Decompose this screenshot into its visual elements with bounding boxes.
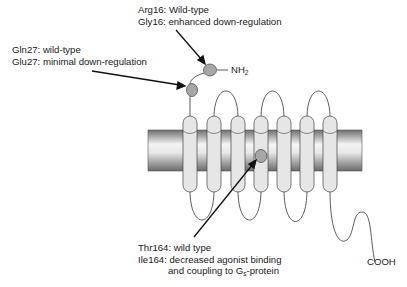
helix-5	[277, 116, 291, 192]
n-terminus-text: NH	[231, 64, 245, 75]
extracellular-loops	[214, 91, 330, 118]
intracellular-loops	[190, 190, 307, 222]
c-terminus-label: COOH	[367, 256, 396, 268]
helix-7	[323, 116, 337, 192]
annotation-27-line2: Glu27: minimal down-regulation	[12, 56, 147, 68]
c-terminal-tail	[330, 190, 375, 262]
helix-1	[183, 116, 197, 192]
arrow-16	[176, 30, 202, 60]
annotation-27-line1: Gln27: wild-type	[12, 44, 147, 56]
helix-6	[300, 116, 314, 192]
arrow-164	[194, 164, 253, 237]
annotation-164-line2: Ile164: decreased agonist binding	[138, 254, 281, 266]
annotation-position-16: Arg16: Wild-type Gly16: enhanced down-re…	[138, 4, 281, 27]
annotation-position-27: Gln27: wild-type Glu27: minimal down-reg…	[12, 44, 147, 67]
site-16-marker	[204, 64, 217, 76]
n-terminus-label: NH2	[231, 64, 248, 79]
annotation-164-line1: Thr164: wild type	[138, 242, 281, 254]
annotation-164-line3-post: -protein	[246, 265, 279, 276]
annotation-164-line3-pre: and coupling to G	[168, 265, 243, 276]
helix-2	[207, 116, 221, 192]
annotation-16-line1: Arg16: Wild-type	[138, 4, 281, 16]
site-164-marker	[255, 150, 267, 163]
arrow-27	[92, 71, 180, 85]
annotation-position-164: Thr164: wild type Ile164: decreased agon…	[138, 242, 281, 280]
annotation-164-line3: and coupling to Gs-protein	[138, 265, 281, 280]
site-27-marker	[187, 84, 198, 97]
n-terminus-subscript: 2	[245, 69, 249, 76]
helix-3	[231, 116, 245, 192]
annotation-16-line2: Gly16: enhanced down-regulation	[138, 16, 281, 28]
